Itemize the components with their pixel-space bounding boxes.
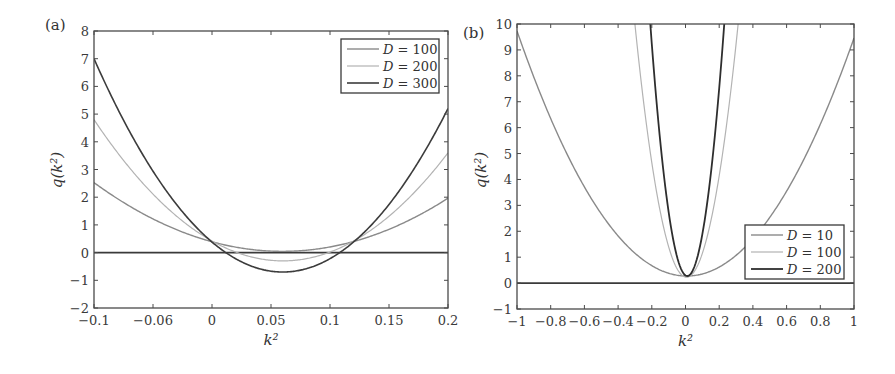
- legend-entry-label: D = 200: [786, 262, 841, 277]
- x-tick-label: 0: [681, 314, 689, 329]
- x-tick-label: −0.2: [636, 314, 668, 329]
- x-tick-label: 1: [850, 314, 858, 329]
- legend-entry-label: D = 10: [786, 228, 833, 243]
- x-tick-label: −0.6: [569, 314, 601, 329]
- legend: D = 100D = 200D = 300: [341, 39, 439, 93]
- y-tick-label: −1: [493, 302, 512, 317]
- y-tick-label: 0: [81, 246, 89, 261]
- y-tick-label: 0: [504, 276, 512, 291]
- y-tick-label: 1: [504, 250, 512, 265]
- y-tick-label: 9: [504, 43, 512, 58]
- series-line-d-100: [94, 183, 448, 252]
- chart-panel-b: −1−0.8−0.6−0.4−0.200.20.40.60.81−1012345…: [463, 0, 858, 350]
- panel-label: (a): [45, 16, 66, 34]
- x-tick-label: −0.06: [133, 313, 173, 328]
- y-tick-label: 4: [81, 135, 89, 150]
- figure: −0.1−0.0600.050.10.150.2−2−1012345678k²q…: [0, 0, 895, 374]
- y-tick-label: 7: [81, 52, 89, 67]
- x-tick-label: 0.2: [709, 314, 730, 329]
- x-tick-label: 0.2: [438, 313, 459, 328]
- series-line-d-200: [94, 120, 448, 261]
- y-tick-label: 3: [81, 163, 89, 178]
- y-tick-label: 5: [504, 147, 512, 162]
- chart-panel-a: −0.1−0.0600.050.10.150.2−2−1012345678k²q…: [45, 16, 458, 349]
- y-tick-label: 6: [504, 121, 512, 136]
- x-tick-label: 0.4: [743, 314, 764, 329]
- y-tick-label: 5: [81, 107, 89, 122]
- y-axis-label: q(k²): [48, 152, 66, 189]
- y-tick-label: 4: [504, 172, 512, 187]
- legend-entry-label: D = 100: [382, 42, 437, 57]
- x-tick-label: 0: [208, 313, 216, 328]
- x-tick-label: 0.05: [257, 313, 286, 328]
- y-tick-label: 3: [504, 198, 512, 213]
- x-tick-label: −0.8: [535, 314, 567, 329]
- y-tick-label: 1: [81, 218, 89, 233]
- y-tick-label: 8: [81, 24, 89, 39]
- y-tick-label: 2: [504, 224, 512, 239]
- y-tick-label: 8: [504, 69, 512, 84]
- y-tick-label: 7: [504, 95, 512, 110]
- x-tick-label: 0.1: [320, 313, 341, 328]
- x-axis-label: k²: [263, 331, 278, 349]
- x-tick-label: 0.15: [375, 313, 404, 328]
- x-tick-label: 0.8: [810, 314, 831, 329]
- legend-entry-label: D = 100: [786, 245, 841, 260]
- y-tick-label: 10: [495, 17, 512, 32]
- y-tick-label: −1: [70, 273, 89, 288]
- x-tick-label: 0.6: [776, 314, 797, 329]
- legend-entry-label: D = 300: [382, 76, 437, 91]
- y-axis-label: q(k²): [472, 152, 490, 189]
- x-axis-label: k²: [678, 332, 693, 350]
- y-tick-label: 2: [81, 190, 89, 205]
- y-tick-label: 6: [81, 79, 89, 94]
- x-tick-label: −0.4: [602, 314, 634, 329]
- y-tick-label: −2: [70, 301, 89, 316]
- legend: D = 10D = 100D = 200: [745, 225, 844, 279]
- panel-label: (b): [463, 24, 484, 42]
- legend-entry-label: D = 200: [382, 59, 437, 74]
